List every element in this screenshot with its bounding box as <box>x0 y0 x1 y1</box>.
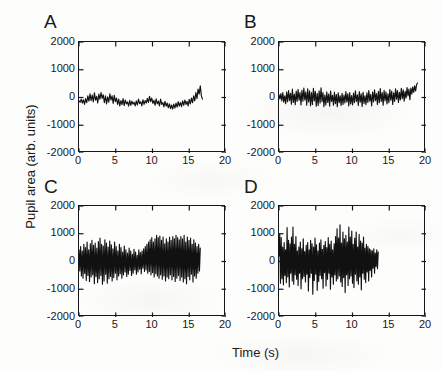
panel-b-ytick-label: 2000 <box>241 36 275 47</box>
panel-a-xtick-label: 5 <box>104 155 126 166</box>
panel-d-ytick-label: 1000 <box>241 227 275 238</box>
panel-d-letter: D <box>244 177 258 196</box>
panel-d-xtick-label: 15 <box>377 319 399 330</box>
x-axis-label: Time (s) <box>232 346 279 359</box>
panel-c-xtick-label: 5 <box>104 319 126 330</box>
panel-d-plot-area <box>279 206 426 317</box>
panel-c-xtick-label: 0 <box>67 319 89 330</box>
panel-b-xtick-label: 15 <box>377 155 399 166</box>
panel-a-xtick-label: 20 <box>214 155 236 166</box>
panel-b-xtick-label: 0 <box>267 155 289 166</box>
panel-c-ytick-label: 0 <box>41 255 75 266</box>
panel-d-ytick-label: -1000 <box>241 283 275 294</box>
panel-a-xtick-label: 10 <box>141 155 163 166</box>
panel-d-xtick-label: 20 <box>414 319 436 330</box>
panel-d-plot-box <box>278 205 425 316</box>
panel-b-ytick-label: 0 <box>241 91 275 102</box>
panel-a-trace <box>79 86 202 109</box>
panel-a-ytick-label: 1000 <box>41 63 75 74</box>
panel-c-plot-area <box>79 206 226 317</box>
panel-b-xtick-label: 20 <box>414 155 436 166</box>
panel-a-xtick-label: 15 <box>177 155 199 166</box>
panel-d-ytick-label: 0 <box>241 255 275 266</box>
panel-c-ytick-label: -1000 <box>41 283 75 294</box>
panel-a-plot-area <box>79 42 226 153</box>
panel-d-ytick-label: 2000 <box>241 200 275 211</box>
pupil-area-figure: Pupil area (arb. units) Time (s) A B C D… <box>0 0 442 371</box>
panel-d-xtick-label: 10 <box>341 319 363 330</box>
panel-b-ytick-label: 1000 <box>241 63 275 74</box>
panel-d-xtick-label: 0 <box>267 319 289 330</box>
panel-c-ytick-label: 1000 <box>41 227 75 238</box>
panel-b-ytick-label: -1000 <box>241 119 275 130</box>
panel-b-letter: B <box>244 12 257 31</box>
panel-b-xtick-label: 10 <box>341 155 363 166</box>
panel-b-trace <box>279 83 418 107</box>
panel-a-ytick-label: 0 <box>41 91 75 102</box>
panel-d-xtick-label: 5 <box>304 319 326 330</box>
y-axis-label: Pupil area (arb. units) <box>24 82 37 252</box>
panel-c-ytick-label: 2000 <box>41 200 75 211</box>
panel-a-plot-box <box>78 41 225 152</box>
panel-b-xtick-label: 5 <box>304 155 326 166</box>
panel-c-letter: C <box>44 177 58 196</box>
panel-a-letter: A <box>44 12 57 31</box>
panel-c-trace <box>79 235 200 284</box>
panel-b-plot-area <box>279 42 426 153</box>
panel-a-xtick-label: 0 <box>67 155 89 166</box>
panel-c-plot-box <box>78 205 225 316</box>
panel-c-xtick-label: 15 <box>177 319 199 330</box>
panel-a-ytick-label: 2000 <box>41 36 75 47</box>
panel-b-plot-box <box>278 41 425 152</box>
panel-c-xtick-label: 20 <box>214 319 236 330</box>
panel-d-trace <box>279 225 378 294</box>
panel-c-xtick-label: 10 <box>141 319 163 330</box>
panel-a-ytick-label: -1000 <box>41 119 75 130</box>
